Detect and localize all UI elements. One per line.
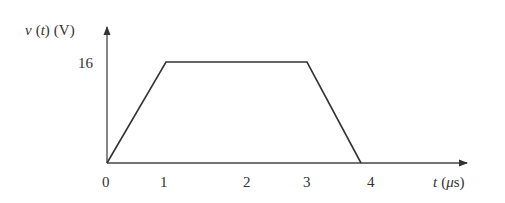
x-tick-1: 1 [160,174,168,190]
x-tick-2: 2 [243,174,251,190]
y-axis-label: v(t)(V) [25,22,75,39]
x-tick-0: 0 [102,174,110,190]
voltage-waveform [107,62,361,163]
waveform-chart: v(t)(V) 16 0 1 2 3 4 t(μs) [0,0,505,203]
y-tick-16: 16 [78,55,94,71]
x-axis-label: t(μs) [433,174,465,191]
x-tick-3: 3 [303,174,311,190]
x-tick-4: 4 [367,174,375,190]
